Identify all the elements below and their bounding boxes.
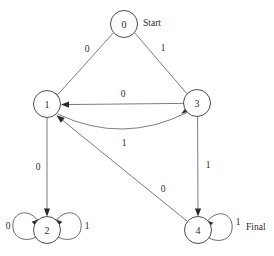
node-0-label: 0 [122,19,127,30]
edge-0-to-1-line [58,33,114,95]
edge-3-to-1: 0 [61,89,184,108]
edge-0-to-3-label: 1 [161,43,166,53]
edge-4-to-1-line [58,117,188,222]
node-3[interactable]: 3 [184,90,211,117]
edge-3-to-1-arrowhead [61,102,69,108]
edge-3-to-1-label: 0 [121,89,126,99]
node-2-label: 2 [45,225,50,236]
node-1-label: 1 [45,99,50,110]
edge-0-to-3: 1 [135,33,192,101]
diagram-canvas: 0 1 0 1 0 1 [0,0,274,256]
edge-0-to-3-line [135,33,188,94]
edge-3-to-1-line [63,103,184,104]
edge-4-self-loop-right-label: 1 [236,217,241,227]
edge-1-to-2-arrowhead [44,209,50,217]
edge-2-self-loop-left-label: 0 [6,221,11,231]
node-2[interactable]: 2 [34,217,61,244]
edge-0-to-1-label: 0 [85,44,90,54]
node-1[interactable]: 1 [34,91,61,118]
edge-0-to-1: 0 [52,33,113,101]
node-4-label: 4 [196,225,201,236]
edge-3-to-4: 1 [195,117,211,217]
edge-3-to-4-arrowhead [195,209,201,217]
edge-4-to-1: 0 [57,115,188,221]
edge-1-to-2: 0 [36,118,50,217]
edge-1-to-3-curve [58,112,189,129]
edge-1-to-3-label: 1 [122,138,127,148]
node-3-label: 3 [195,98,200,109]
edge-1-to-2-label: 0 [36,162,41,172]
node-4[interactable]: 4 [185,217,212,244]
start-annotation: Start [143,18,161,28]
final-annotation: Final [246,222,266,232]
edge-3-to-4-label: 1 [206,160,211,170]
edge-2-self-loop-right-label: 1 [85,221,90,231]
edge-4-to-1-label: 0 [161,184,166,194]
edge-1-to-3: 1 [58,109,190,148]
state-machine-diagram: 0 1 0 1 0 1 [0,0,274,256]
node-0[interactable]: 0 [111,11,138,38]
